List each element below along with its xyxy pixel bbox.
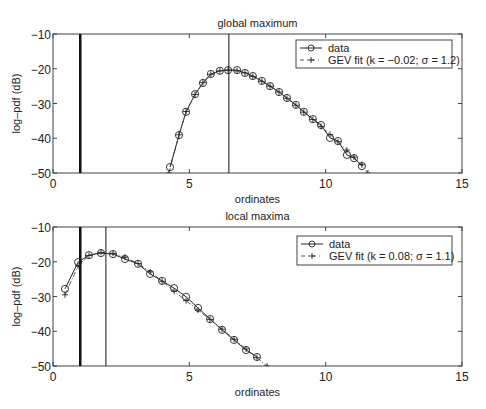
legend-label-gev-fit: GEV fit (k = 0.08; σ = 1.1) bbox=[329, 250, 454, 262]
series-gev-fit bbox=[166, 67, 371, 176]
plot-title: global maximum bbox=[217, 17, 297, 29]
legend-label-data: data bbox=[329, 238, 351, 250]
legend: dataGEV fit (k = −0.02; σ = 1.2) bbox=[296, 40, 460, 68]
y-tick-label: −50 bbox=[31, 167, 52, 181]
y-tick-label: −10 bbox=[31, 28, 52, 42]
y-tick-label: −50 bbox=[31, 360, 52, 374]
y-axis-label: log–pdf (dB) bbox=[10, 74, 22, 134]
series-gev-fit bbox=[62, 249, 270, 369]
x-tick-label: 5 bbox=[186, 177, 193, 191]
x-tick-label: 5 bbox=[186, 370, 193, 384]
x-tick-label: 10 bbox=[319, 370, 333, 384]
plot-bottom: 051015−10−20−30−40−50local maximaordinat… bbox=[10, 210, 469, 398]
plot-top: 051015−10−20−30−40−50global maximumordin… bbox=[10, 17, 469, 205]
y-axis-label: log–pdf (dB) bbox=[10, 267, 22, 327]
y-tick-label: −20 bbox=[31, 256, 52, 270]
series-data bbox=[61, 249, 260, 360]
figure: 051015−10−20−30−40−50global maximumordin… bbox=[0, 0, 486, 409]
y-tick-label: −40 bbox=[31, 132, 52, 146]
y-tick-label: −30 bbox=[31, 98, 52, 112]
x-axis-label: ordinates bbox=[235, 386, 281, 398]
y-tick-label: −20 bbox=[31, 63, 52, 77]
x-tick-label: 15 bbox=[455, 370, 469, 384]
series-data bbox=[166, 67, 365, 171]
plot-title: local maxima bbox=[225, 210, 290, 222]
x-tick-label: 10 bbox=[319, 177, 333, 191]
legend-label-gev-fit: GEV fit (k = −0.02; σ = 1.2) bbox=[328, 54, 460, 66]
y-tick-label: −10 bbox=[31, 221, 52, 235]
legend-label-data: data bbox=[328, 42, 350, 54]
y-tick-label: −30 bbox=[31, 291, 52, 305]
y-tick-label: −40 bbox=[31, 325, 52, 339]
x-axis-label: ordinates bbox=[235, 193, 281, 205]
legend: dataGEV fit (k = 0.08; σ = 1.1) bbox=[297, 236, 454, 265]
x-tick-label: 15 bbox=[455, 177, 469, 191]
